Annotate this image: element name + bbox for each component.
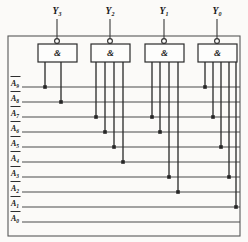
input-label-a8: A8 — [10, 94, 19, 104]
junction-y2-a6 — [103, 130, 107, 134]
input-label-a6: A6 — [10, 124, 19, 134]
junction-y0-a5 — [219, 145, 223, 149]
gate-layer: &&&& — [38, 39, 237, 62]
input-label-a4: A4 — [10, 154, 19, 164]
nand-gate-y0-inversion-bubble — [215, 39, 220, 44]
junction-y3-a8 — [59, 100, 63, 104]
nand-gate-y1-symbol: & — [161, 48, 168, 58]
input-label-a5: A5 — [10, 139, 19, 149]
input-label-a7: A7 — [10, 109, 19, 119]
nand-gate-y2-symbol: & — [107, 48, 114, 58]
nand-gate-y0-symbol: & — [214, 48, 221, 58]
junction-y0-a7 — [211, 115, 215, 119]
nand-gate-y3-symbol: & — [54, 48, 61, 58]
junction-y0-a9 — [203, 85, 207, 89]
junction-y2-a5 — [112, 145, 116, 149]
junction-y0-a1 — [234, 205, 238, 209]
output-label-layer: Y3Y2Y1Y0 — [53, 6, 222, 38]
junction-y1-a3 — [167, 175, 171, 179]
encoder-circuit-diagram: &&&& Y3Y2Y1Y0 A9A8A7A6A5A4A3A2A1A0 — [0, 0, 248, 242]
junction-y1-a7 — [150, 115, 154, 119]
input-label-a9: A9 — [10, 79, 19, 89]
nand-gate-y1-inversion-bubble — [162, 39, 167, 44]
junction-y1-a2 — [176, 190, 180, 194]
output-label-y1: Y1 — [160, 6, 169, 17]
input-label-a0: A0 — [10, 214, 19, 224]
junction-y2-a7 — [94, 115, 98, 119]
output-label-y0: Y0 — [213, 6, 222, 17]
input-label-layer: A9A8A7A6A5A4A3A2A1A0 — [10, 77, 21, 224]
input-bus-layer — [22, 87, 240, 222]
output-label-y2: Y2 — [106, 6, 115, 17]
input-label-a1: A1 — [10, 199, 19, 209]
junction-y3-a9 — [43, 85, 47, 89]
nand-gate-y3-inversion-bubble — [55, 39, 60, 44]
junction-y1-a6 — [158, 130, 162, 134]
input-label-a3: A3 — [10, 169, 19, 179]
output-label-y3: Y3 — [53, 6, 62, 17]
junction-y2-a4 — [121, 160, 125, 164]
circuit-canvas: &&&& Y3Y2Y1Y0 A9A8A7A6A5A4A3A2A1A0 — [0, 0, 248, 242]
junction-y0-a3 — [227, 175, 231, 179]
nand-gate-y2-inversion-bubble — [108, 39, 113, 44]
input-label-a2: A2 — [10, 184, 19, 194]
drop-wire-layer — [45, 62, 236, 207]
